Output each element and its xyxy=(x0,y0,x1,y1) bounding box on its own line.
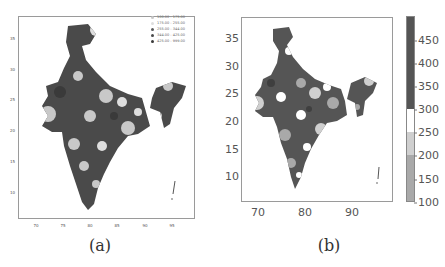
colorbar-tick: 450 xyxy=(418,34,439,47)
x-tick-b: 80 xyxy=(298,206,312,219)
colorbar-tick: 300 xyxy=(418,103,439,116)
y-tick-b: 35 xyxy=(225,32,239,45)
colorbar-tick: 250 xyxy=(418,126,439,139)
colorbar-tick: 350 xyxy=(418,80,439,93)
y-tick-b: 30 xyxy=(225,60,239,73)
x-tick-b: 90 xyxy=(345,206,359,219)
x-tick-b: 70 xyxy=(251,206,265,219)
colorbar-tick: 100 xyxy=(418,196,439,209)
y-tick-b: 20 xyxy=(225,115,239,128)
caption-b: (b) xyxy=(318,236,341,255)
colorbar-tick: 200 xyxy=(418,149,439,162)
y-tick-b: 15 xyxy=(225,143,239,156)
colorbar-tick: 150 xyxy=(418,173,439,186)
india-map-b xyxy=(241,17,393,202)
colorbar-tick: 400 xyxy=(418,57,439,70)
y-tick-b: 25 xyxy=(225,87,239,100)
panel-b: 35 30 25 20 15 10 70 80 90 100 150 200 2… xyxy=(0,0,445,267)
y-tick-b: 10 xyxy=(225,170,239,183)
